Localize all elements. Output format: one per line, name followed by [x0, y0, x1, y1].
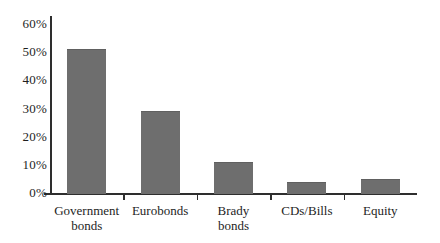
category-label-line: bonds: [43, 219, 130, 234]
y-axis-line: [50, 16, 52, 195]
y-tick-label-20: 20%: [7, 129, 47, 145]
bar-government-bonds: [67, 49, 106, 194]
y-tick-label-50: 50%: [7, 44, 47, 60]
bar-brady-bonds: [214, 162, 253, 194]
y-tick-label-60: 60%: [7, 16, 47, 32]
x-axis-tick-3: [270, 195, 272, 200]
bar-cds-bills: [287, 182, 326, 194]
category-label-equity: Equity: [337, 204, 424, 219]
bar-equity: [361, 179, 400, 194]
y-tick-label-10: 10%: [7, 157, 47, 173]
x-axis-tick-2: [197, 195, 199, 200]
category-label-line: Equity: [337, 204, 424, 219]
y-tick-label-0: 0%: [7, 185, 47, 201]
bar-chart-figure: 0%10%20%30%40%50%60% GovernmentbondsEuro…: [0, 0, 440, 243]
y-tick-label-40: 40%: [7, 72, 47, 88]
category-label-line: bonds: [190, 219, 277, 234]
bar-eurobonds: [141, 111, 180, 194]
y-tick-label-30: 30%: [7, 101, 47, 117]
x-axis-tick-4: [344, 195, 346, 200]
x-axis-tick-1: [123, 195, 125, 200]
